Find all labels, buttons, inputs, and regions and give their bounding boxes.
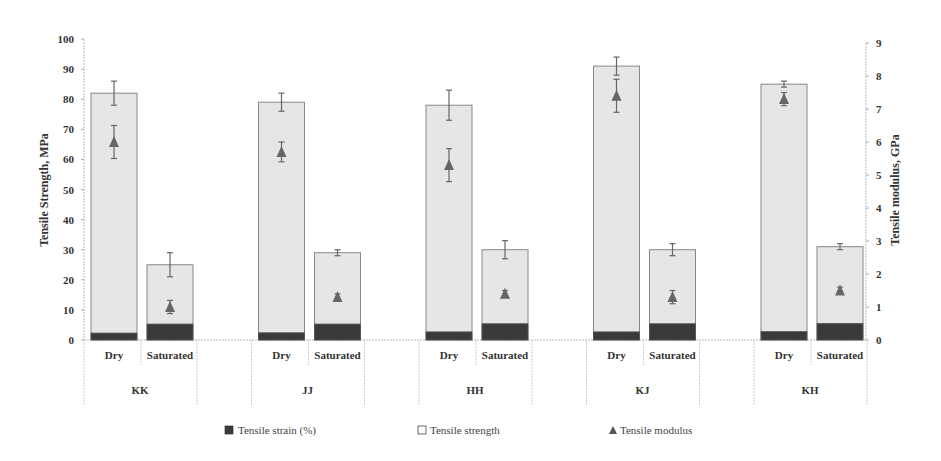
strain-bar [259,333,305,340]
legend-label: Tensile strength [430,424,500,436]
condition-label: Saturated [314,349,360,361]
strain-bar [594,332,640,340]
legend-item-strain: Tensile strain (%) [225,424,316,437]
legend-label: Tensile modulus [620,424,692,436]
y2-tick-label: 8 [876,70,882,82]
condition-label: Saturated [482,349,528,361]
y-tick-label: 70 [63,123,75,135]
y2-tick-label: 6 [876,136,882,148]
y-tick-label: 60 [63,153,75,165]
y2-tick-label: 5 [876,169,882,181]
condition-label: Dry [105,349,124,361]
condition-label: Dry [607,349,626,361]
strength-bar [426,105,472,340]
y2-tick-label: 0 [876,334,882,346]
y2-tick-label: 9 [876,37,882,49]
y-tick-label: 30 [63,244,75,256]
strength-bar [761,84,807,340]
legend: Tensile strain (%) Tensile strength Tens… [225,424,692,437]
modulus-markers [109,79,845,313]
condition-label: Saturated [147,349,193,361]
chart: 01020304050607080901000123456789 KKDrySa… [0,0,941,461]
group-label: KJ [635,384,650,396]
condition-label: Dry [272,349,291,361]
y-axis-title: Tensile Strength, MPa [37,133,51,247]
y2-tick-label: 2 [876,268,882,280]
y2-tick-label: 4 [876,202,882,214]
strain-bar [91,333,137,340]
y2-tick-label: 1 [876,301,882,313]
x-categories: KKDrySaturatedJJDrySaturatedHHDrySaturat… [84,340,867,405]
y-tick-label: 20 [63,274,75,286]
condition-label: Saturated [649,349,695,361]
y-tick-label: 0 [69,334,75,346]
y-tick-label: 90 [63,63,75,75]
y2-tick-label: 7 [876,103,882,115]
legend-item-strength: Tensile strength [418,424,500,436]
condition-label: Saturated [817,349,863,361]
strain-bar [482,324,528,340]
strain-bar [426,332,472,340]
legend-label: Tensile strain (%) [238,424,316,437]
condition-label: Dry [440,349,459,361]
group-label: KH [801,384,819,396]
y-tick-label: 100 [58,33,75,45]
strain-bar [650,324,696,340]
group-label: JJ [302,384,314,396]
filled-square-icon [225,426,233,434]
y2-tick-label: 3 [876,235,882,247]
strain-bar [315,324,361,340]
condition-label: Dry [775,349,794,361]
y-tick-label: 40 [63,214,75,226]
group-label: HH [466,384,484,396]
y2-axis-title: Tensile modulus, GPa [888,134,902,245]
strain-bar [817,323,863,340]
strain-bar [147,324,193,340]
strength-bar [259,102,305,340]
triangle-icon [609,426,617,434]
bars [91,57,863,340]
y-tick-label: 50 [63,184,75,196]
y-tick-label: 10 [63,304,75,316]
y-tick-label: 80 [63,93,75,105]
legend-item-modulus: Tensile modulus [609,424,692,436]
strain-bar [761,332,807,340]
open-square-icon [418,426,426,434]
group-label: KK [131,384,149,396]
